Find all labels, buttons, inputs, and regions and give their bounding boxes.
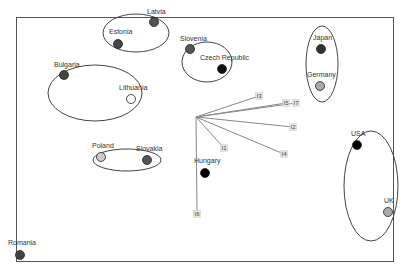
vector-label-i4: I4 <box>281 151 287 157</box>
point-romania: Romania <box>8 239 36 260</box>
point-label: Czech Republic <box>200 54 250 62</box>
vector-line-i3 <box>196 96 259 117</box>
point-slovakia: Slovakia <box>136 145 163 165</box>
point-label: Latvia <box>147 8 166 15</box>
vector-label-i6: I6 <box>194 211 200 217</box>
point-label: Slovenia <box>180 35 207 42</box>
point-uk: UK <box>384 197 395 217</box>
cluster-ellipse-usa-uk <box>344 131 398 241</box>
point-lithuania: Lithuania <box>119 84 148 104</box>
point-marker <box>353 141 362 150</box>
vector-line-i1 <box>196 117 224 148</box>
point-marker <box>150 18 159 27</box>
point-marker <box>143 156 152 165</box>
vector-line-i7 <box>196 103 296 117</box>
point-marker <box>16 251 25 260</box>
point-germany: Germany <box>307 71 336 91</box>
point-usa: USA <box>351 130 366 150</box>
point-label: Romania <box>8 239 36 246</box>
vector-label-i3: I3 <box>256 93 262 99</box>
point-label: Germany <box>307 71 336 79</box>
point-marker <box>384 208 393 217</box>
point-label: Slovakia <box>136 145 163 152</box>
variable-vectors: I3I5I7I2I4I1I6 <box>194 93 300 218</box>
point-label: USA <box>351 130 366 137</box>
point-czech-republic: Czech Republic <box>200 54 250 74</box>
point-label: Japan <box>313 34 332 42</box>
point-marker <box>127 95 136 104</box>
point-marker <box>186 45 195 54</box>
point-marker <box>316 82 325 91</box>
point-label: Poland <box>92 142 114 149</box>
point-label: UK <box>384 197 394 204</box>
vector-line-i4 <box>196 117 284 154</box>
cluster-ellipses <box>48 14 398 241</box>
point-japan: Japan <box>313 34 332 54</box>
point-label: Estonia <box>109 28 132 35</box>
point-estonia: Estonia <box>109 28 132 49</box>
vector-label-i5: I5 <box>283 100 289 106</box>
point-hungary: Hungary <box>194 157 221 178</box>
point-marker <box>201 169 210 178</box>
vector-label-i1: I1 <box>221 145 227 151</box>
point-marker <box>60 71 69 80</box>
point-marker <box>114 40 123 49</box>
point-slovenia: Slovenia <box>180 35 207 54</box>
vector-line-i6 <box>196 117 197 214</box>
point-label: Hungary <box>194 157 221 165</box>
vector-label-i2: I2 <box>290 124 296 130</box>
biplot-chart: I3I5I7I2I4I1I6 LatviaEstoniaSloveniaCzec… <box>0 0 408 275</box>
point-label: Lithuania <box>119 84 148 91</box>
point-label: Bulgaria <box>54 61 80 69</box>
point-marker <box>317 45 326 54</box>
vector-label-i7: I7 <box>293 100 299 106</box>
point-marker <box>218 65 227 74</box>
point-marker <box>97 153 106 162</box>
vector-line-i2 <box>196 117 293 127</box>
